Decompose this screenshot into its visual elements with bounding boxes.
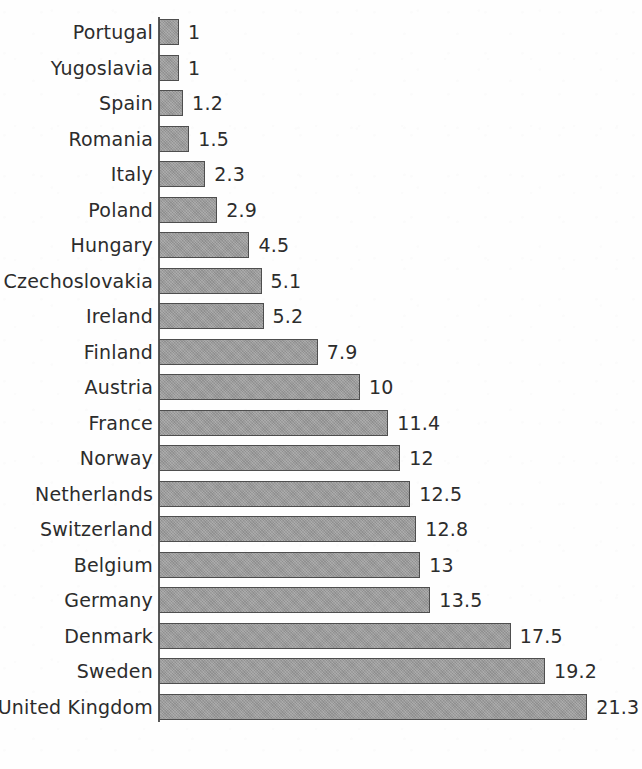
category-label: Belgium [74,554,153,576]
bar-value-label: 2.9 [226,199,257,221]
plot-area: Portugal1Yugoslavia1Spain1.2Romania1.5It… [0,0,642,769]
category-label: Hungary [70,234,153,256]
bar-row: Yugoslavia1 [0,55,642,81]
category-label: Norway [80,447,153,469]
bar-value-label: 5.1 [271,270,302,292]
bar-row: Austria10 [0,374,642,400]
bar [159,268,262,294]
category-label: Switzerland [40,518,153,540]
bar [159,161,205,187]
bar-value-label: 10 [369,376,394,398]
bar-row: France11.4 [0,410,642,436]
bar-value-label: 1.5 [198,128,229,150]
category-label: France [89,412,153,434]
bar-value-label: 21.3 [596,696,639,718]
bar [159,658,545,684]
bar [159,90,183,116]
bar-row: Spain1.2 [0,90,642,116]
bar [159,481,410,507]
bar-value-label: 4.5 [258,234,289,256]
bar [159,197,217,223]
bar-row: Czechoslovakia5.1 [0,268,642,294]
bar [159,516,416,542]
category-label: Romania [69,128,154,150]
bar-row: Denmark17.5 [0,623,642,649]
bar-row: Portugal1 [0,19,642,45]
category-label: Sweden [77,660,153,682]
category-label: United Kingdom [0,696,153,718]
bar-value-label: 7.9 [327,341,358,363]
category-label: Spain [99,92,153,114]
bar [159,126,189,152]
bar-value-label: 13.5 [439,589,482,611]
bar-value-label: 12 [409,447,434,469]
bar-row: Hungary4.5 [0,232,642,258]
bar [159,232,249,258]
bar [159,55,179,81]
category-label: Netherlands [35,483,153,505]
bar-row: Netherlands12.5 [0,481,642,507]
category-label: Germany [64,589,153,611]
category-label: Italy [111,163,153,185]
category-label: Yugoslavia [51,57,153,79]
bar [159,374,360,400]
bar [159,19,179,45]
bar-value-label: 11.4 [397,412,440,434]
bar [159,587,430,613]
bar-row: Norway12 [0,445,642,471]
bar [159,303,264,329]
bar-row: Ireland5.2 [0,303,642,329]
bar-value-label: 19.2 [554,660,597,682]
bar-chart: Portugal1Yugoslavia1Spain1.2Romania1.5It… [0,0,642,769]
category-label: Ireland [86,305,153,327]
category-label: Poland [88,199,153,221]
bar-row: Poland2.9 [0,197,642,223]
bar [159,339,318,365]
bar-row: Belgium13 [0,552,642,578]
bar-value-label: 12.5 [419,483,462,505]
bar-value-label: 1 [188,21,200,43]
category-label: Czechoslovakia [4,270,153,292]
bar-value-label: 1.2 [192,92,223,114]
bar-row: Sweden19.2 [0,658,642,684]
bar-value-label: 1 [188,57,200,79]
bar [159,410,388,436]
bar-value-label: 12.8 [425,518,468,540]
bar [159,445,400,471]
bar-row: Germany13.5 [0,587,642,613]
bar [159,694,587,720]
bar [159,552,420,578]
category-label: Portugal [73,21,153,43]
bar-row: Italy2.3 [0,161,642,187]
bar-value-label: 13 [429,554,454,576]
bar-value-label: 5.2 [273,305,304,327]
category-label: Finland [84,341,153,363]
bar-row: United Kingdom21.3 [0,694,642,720]
bar-row: Switzerland12.8 [0,516,642,542]
bar-value-label: 2.3 [214,163,245,185]
value-axis-line [158,17,160,722]
bar-row: Romania1.5 [0,126,642,152]
bar-row: Finland7.9 [0,339,642,365]
category-label: Denmark [64,625,153,647]
bar [159,623,511,649]
bar-value-label: 17.5 [520,625,563,647]
category-label: Austria [84,376,153,398]
